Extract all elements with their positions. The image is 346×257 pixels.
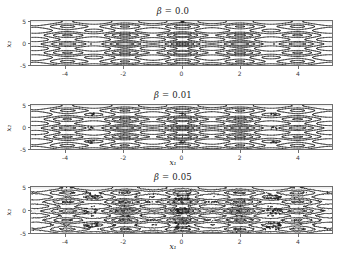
panel-title-1: β = 0.01: [0, 90, 346, 100]
x-tick-label: 4: [296, 238, 300, 245]
plot-area-1: [30, 104, 333, 150]
contour-canvas-1: [31, 105, 333, 150]
x-tick-label: -2: [120, 70, 126, 77]
x-tickmark: [123, 234, 124, 237]
x-axis-label-2: x₁: [0, 242, 346, 251]
panel-beta-001: β = 0.01 x₂ x₁ -4-202450-5: [0, 84, 346, 170]
y-tick-label: 5: [10, 183, 26, 190]
contour-canvas-0: [31, 21, 333, 66]
y-tickmark: [28, 127, 31, 128]
y-tick-label: -5: [10, 146, 26, 153]
panel-title-2: β = 0.05: [0, 172, 346, 182]
contour-canvas-2: [31, 187, 333, 234]
panel-beta-0: β = 0.0 x₂ -4-202450-5: [0, 0, 346, 86]
x-tick-label: 0: [180, 154, 184, 161]
x-tick-label: -4: [62, 70, 68, 77]
y-tick-label: -5: [10, 230, 26, 237]
x-tick-label: 2: [238, 154, 242, 161]
x-tick-label: -4: [62, 238, 68, 245]
x-tick-label: 4: [296, 154, 300, 161]
y-tick-label: 0: [10, 124, 26, 131]
x-tickmark: [298, 234, 299, 237]
x-tick-label: -2: [120, 238, 126, 245]
y-tickmark: [28, 149, 31, 150]
x-tickmark: [65, 66, 66, 69]
x-tick-label: 2: [238, 70, 242, 77]
plot-area-2: [30, 186, 333, 234]
contour-figure: β = 0.0 x₂ -4-202450-5 β = 0.01 x₂ x₁ -4…: [0, 0, 346, 257]
x-tickmark: [182, 150, 183, 153]
x-tickmark: [65, 150, 66, 153]
y-tick-label: 5: [10, 101, 26, 108]
x-tickmark: [182, 66, 183, 69]
y-tick-label: 5: [10, 17, 26, 24]
x-tickmark: [298, 150, 299, 153]
x-tick-label: -2: [120, 154, 126, 161]
x-tick-label: -4: [62, 154, 68, 161]
x-tickmark: [123, 150, 124, 153]
y-tickmark: [28, 105, 31, 106]
y-tickmark: [28, 187, 31, 188]
y-tick-label: 0: [10, 40, 26, 47]
x-tick-label: 4: [296, 70, 300, 77]
x-tickmark: [182, 234, 183, 237]
x-tick-label: 0: [180, 70, 184, 77]
x-tick-label: 0: [180, 238, 184, 245]
x-tickmark: [240, 150, 241, 153]
y-tickmark: [28, 21, 31, 22]
y-tickmark: [28, 65, 31, 66]
x-tick-label: 2: [238, 238, 242, 245]
y-tickmark: [28, 43, 31, 44]
y-tick-label: -5: [10, 62, 26, 69]
x-tickmark: [240, 234, 241, 237]
y-tick-label: 0: [10, 207, 26, 214]
x-tickmark: [240, 66, 241, 69]
y-tickmark: [28, 233, 31, 234]
x-tickmark: [298, 66, 299, 69]
panel-title-0: β = 0.0: [0, 6, 346, 16]
plot-area-0: [30, 20, 333, 66]
y-tickmark: [28, 210, 31, 211]
panel-beta-005: β = 0.05 x₂ x₁ -4-202450-5: [0, 166, 346, 257]
x-tickmark: [65, 234, 66, 237]
x-tickmark: [123, 66, 124, 69]
